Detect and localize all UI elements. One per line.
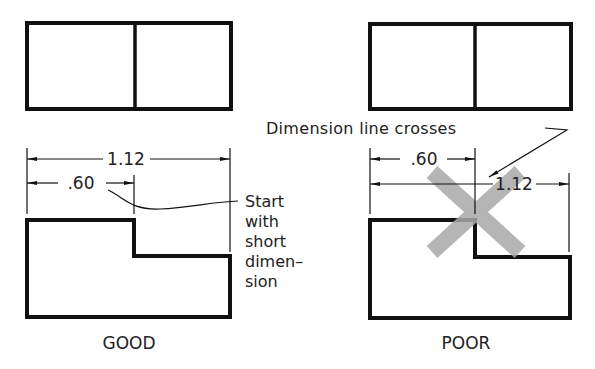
good-dim-long: 1.12 bbox=[107, 149, 145, 169]
svg-text:sion: sion bbox=[245, 272, 278, 291]
poor-example: .60 1.12 Dimension line crosses POOR bbox=[266, 24, 571, 353]
dimensioning-diagram: 1.12 .60 Start with short dimen– sion GO… bbox=[0, 0, 595, 369]
good-dim-short: .60 bbox=[67, 173, 94, 193]
good-top-view bbox=[27, 23, 231, 109]
svg-text:Start: Start bbox=[245, 192, 284, 211]
good-note: Start with short dimen– sion bbox=[245, 192, 303, 291]
poor-caption: POOR bbox=[442, 333, 491, 353]
svg-text:dimen–: dimen– bbox=[245, 252, 303, 271]
good-front-view bbox=[27, 220, 230, 317]
svg-text:short: short bbox=[245, 232, 286, 251]
poor-dim-long: 1.12 bbox=[495, 174, 533, 194]
poor-top-view bbox=[370, 24, 571, 109]
poor-note: Dimension line crosses bbox=[266, 119, 456, 138]
svg-text:with: with bbox=[245, 212, 279, 231]
good-caption: GOOD bbox=[102, 333, 155, 353]
good-leader bbox=[108, 190, 238, 209]
poor-dim-short: .60 bbox=[410, 149, 437, 169]
good-example: 1.12 .60 Start with short dimen– sion GO… bbox=[27, 23, 303, 353]
poor-front-view bbox=[370, 220, 570, 318]
poor-leader bbox=[489, 128, 567, 177]
